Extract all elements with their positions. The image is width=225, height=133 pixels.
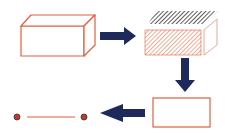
segment-endpoint-left [14,114,20,120]
arrow-down-icon [175,58,195,92]
cuboid-front-face [21,26,84,56]
cuboid-shape [21,15,95,56]
cuboid-top-face [21,15,95,26]
sliced-side-face [204,19,217,55]
segment-endpoint-right [81,114,87,120]
segment-shape [14,114,87,120]
sliced-front-face [145,30,201,55]
dimension-diagram [0,0,225,133]
arrow-left-icon [100,104,145,122]
rectangle-shape [153,98,210,127]
sliced-cuboid-shape [145,11,218,55]
arrow-right-icon [100,27,136,45]
sliced-top-face [148,11,218,24]
